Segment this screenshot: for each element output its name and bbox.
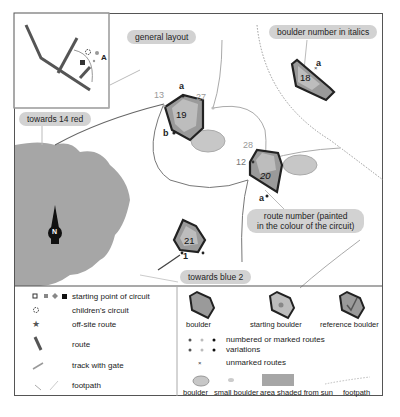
callout-boulder-number: boulder number in italics [269,25,377,39]
legend-starting-point: starting point of circuit [72,292,150,301]
legend-feature-footpath: footpath [343,388,370,397]
route-number-1: 1 [183,251,188,261]
legend-boulder: boulder [186,320,211,329]
callout-general-layout: general layout [127,30,196,44]
legend-feature-boulder: boulder [183,388,208,397]
svg-text:×: × [198,360,202,366]
callout-route-number-line2: in the colour of the circuit) [257,221,354,231]
legend-shaded-area: area shaded from sun [260,388,333,397]
route-number-12: 12 [236,157,246,167]
legend-footpath: footpath [72,381,101,390]
svg-text:★: ★ [32,319,40,329]
legend-small-boulder: small boulder [214,388,259,397]
legend-route: route [72,340,90,349]
boulder-number-20: 20 [260,170,271,181]
boulder-number-21: 21 [184,235,195,246]
inset-letter: A [101,53,107,62]
route-letter-b-19: b [163,128,169,138]
boulder-number-19: 19 [176,109,187,120]
route-letter-a-19: a [179,81,184,91]
legend-off-site-route: off-site route [72,320,116,329]
legend-variations: variations [226,345,260,354]
callout-towards-14-red: towards 14 red [19,112,91,126]
north-label: N [52,228,57,235]
legend-track-with-gate: track with gate [72,361,124,370]
legend-numbered-routes: numbered or marked routes [226,335,325,344]
route-letter-a-20: a [259,193,264,203]
route-number-27: 27 [196,92,206,102]
callout-route-number-line1: route number (painted [257,211,354,221]
route-number-28: 28 [243,140,253,150]
legend-childrens-circuit: children's circuit [72,306,129,315]
legend-unmarked-routes: unmarked routes [226,358,286,367]
route-number-13: 13 [154,90,164,100]
route-letter-a-18: a [316,58,321,68]
callout-route-number: route number (painted in the colour of t… [247,209,364,233]
callout-towards-blue-2: towards blue 2 [180,270,251,284]
shaded-area [15,143,130,287]
legend-reference-boulder: reference boulder [320,320,379,329]
legend-starting-boulder: starting boulder [250,320,302,329]
boulder-number-18: 18 [300,72,311,83]
